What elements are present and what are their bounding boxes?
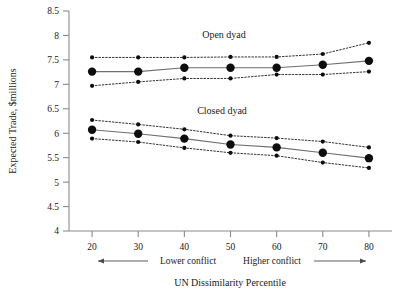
series-open-dyad-ci-upper-marker	[321, 52, 325, 56]
series-closed-dyad-ci-upper-marker	[136, 122, 140, 126]
series-closed-dyad-ci-lower-marker	[228, 151, 232, 155]
series-open-dyad-marker	[88, 67, 96, 75]
series-closed-dyad-ci-upper-marker	[275, 136, 279, 140]
series-open-dyad-ci-upper-marker	[182, 55, 186, 59]
series-open-dyad-marker	[319, 61, 327, 69]
series-closed-dyad-marker	[88, 126, 96, 134]
higher-conflict-label: Higher conflict	[243, 256, 301, 266]
expected-trade-vs-un-dissimilarity-chart: 8.587.576.565.554.54 Expected Trade, $mi…	[0, 0, 400, 293]
series-open-dyad-ci-lower-marker	[228, 76, 232, 80]
x-axis-title: UN Dissimilarity Percentile	[174, 277, 286, 288]
series-closed-dyad-ci-lower-marker	[136, 140, 140, 144]
series-closed-dyad-ci-lower-marker	[90, 137, 94, 141]
lower-conflict-label: Lower conflict	[160, 256, 217, 266]
series-closed-dyad-marker	[365, 154, 373, 162]
x-tick-label: 30	[133, 242, 143, 252]
y-tick-label: 5.5	[47, 153, 59, 163]
series-open-dyad-ci-lower-marker	[182, 76, 186, 80]
series-closed-dyad-marker	[226, 140, 234, 148]
series-open-dyad-ci-lower-marker	[136, 80, 140, 84]
series-closed-dyad-ci-lower-marker	[367, 166, 371, 170]
series-closed-dyad-ci-lower-marker	[321, 160, 325, 164]
series-closed-dyad-ci-upper-marker	[228, 134, 232, 138]
plot-background	[0, 0, 400, 293]
series-closed-dyad-marker	[319, 149, 327, 157]
series-open-dyad-ci-upper-marker	[367, 41, 371, 45]
series-closed-dyad-ci-lower-marker	[182, 146, 186, 150]
x-tick-label: 60	[272, 242, 282, 252]
y-tick-label: 8	[54, 31, 59, 41]
y-tick-label: 8.5	[47, 6, 59, 16]
y-tick-label: 4.5	[47, 202, 59, 212]
series-open-dyad-marker	[272, 64, 280, 72]
y-axis-title: Expected Trade, $millions	[7, 68, 18, 173]
chart-figure: 8.587.576.565.554.54 Expected Trade, $mi…	[0, 0, 400, 293]
series-open-dyad-ci-upper-marker	[228, 55, 232, 59]
open-dyad-label: Open dyad	[202, 29, 246, 40]
series-closed-dyad-ci-upper-marker	[367, 145, 371, 149]
y-tick-label: 6	[54, 129, 59, 139]
series-open-dyad-ci-upper-marker	[275, 55, 279, 59]
closed-dyad-label: Closed dyad	[197, 105, 247, 116]
x-tick-label: 20	[87, 242, 97, 252]
series-open-dyad-marker	[226, 64, 234, 72]
y-tick-label: 4	[54, 226, 59, 236]
y-tick-label: 7.5	[47, 55, 59, 65]
series-open-dyad-ci-lower-marker	[367, 70, 371, 74]
series-closed-dyad-ci-upper-marker	[321, 139, 325, 143]
series-closed-dyad-ci-upper-marker	[182, 127, 186, 131]
series-open-dyad-marker	[365, 57, 373, 65]
y-tick-label: 6.5	[47, 104, 59, 114]
y-tick-label: 5	[54, 178, 59, 188]
x-tick-label: 50	[226, 242, 236, 252]
x-tick-label: 80	[364, 242, 374, 252]
series-closed-dyad-ci-lower-marker	[275, 154, 279, 158]
series-open-dyad-ci-upper-marker	[90, 55, 94, 59]
x-tick-label: 70	[318, 242, 328, 252]
series-open-dyad-ci-lower-marker	[275, 72, 279, 76]
series-closed-dyad-marker	[134, 130, 142, 138]
series-closed-dyad-marker	[272, 143, 280, 151]
series-open-dyad-marker	[134, 67, 142, 75]
x-tick-label: 40	[180, 242, 190, 252]
series-closed-dyad-ci-upper-marker	[90, 118, 94, 122]
series-open-dyad-ci-lower-marker	[321, 72, 325, 76]
series-open-dyad-marker	[180, 64, 188, 72]
y-tick-label: 7	[54, 80, 59, 90]
series-open-dyad-ci-lower-marker	[90, 84, 94, 88]
series-closed-dyad-marker	[180, 134, 188, 142]
series-open-dyad-ci-upper-marker	[136, 55, 140, 59]
